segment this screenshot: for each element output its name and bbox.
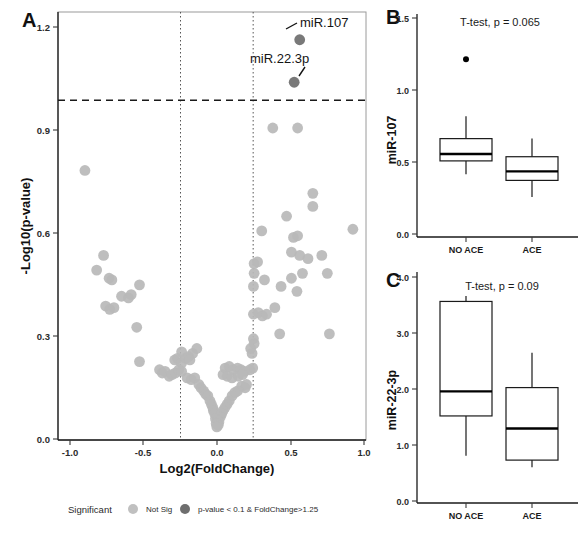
panel-a-xtick-3: 0.5 (284, 447, 298, 458)
volcano-point[interactable] (109, 302, 120, 313)
panel-c-boxes (440, 296, 558, 467)
panel-a-ytick-3: 0.9 (37, 125, 50, 136)
volcano-point[interactable] (322, 268, 333, 279)
panel-b: B T-test, p = 0.065 1.5 1.0 0.5 0.0 miR-… (385, 6, 578, 255)
volcano-point[interactable] (303, 253, 314, 264)
volcano-point[interactable] (185, 355, 196, 366)
volcano-point[interactable] (292, 230, 303, 241)
panel-a-ytick-0: 0.0 (37, 434, 50, 445)
volcano-point[interactable] (307, 201, 318, 212)
panel-b-ytick-2: 1.0 (396, 86, 409, 96)
panel-a-leader-mir107 (286, 23, 297, 29)
volcano-point[interactable] (131, 322, 142, 333)
volcano-point[interactable] (80, 165, 91, 176)
legend: Significant Not Sig p-value < 0.1 & Fold… (68, 504, 319, 515)
volcano-point[interactable] (126, 289, 137, 300)
panel-b-annotation: T-test, p = 0.065 (460, 16, 540, 28)
volcano-point[interactable] (247, 348, 258, 359)
volcano-point[interactable] (292, 286, 303, 297)
panel-a-plot-frame (58, 12, 366, 440)
boxplot-0[interactable] (440, 56, 492, 174)
volcano-point[interactable] (281, 211, 292, 222)
panel-b-boxes (440, 56, 558, 197)
panel-a-label-mir107: miR.107 (300, 15, 348, 30)
panel-a-xtick-1: -0.5 (135, 447, 152, 458)
volcano-point[interactable] (134, 279, 145, 290)
boxplot-outlier[interactable] (463, 56, 469, 62)
panel-a-xtick-0: -1.0 (62, 447, 78, 458)
panel-a-threshold-lines (58, 12, 366, 440)
legend-swatch-significant[interactable] (180, 504, 190, 514)
volcano-point[interactable] (134, 356, 145, 367)
panel-a-x-ticks: -1.0 -0.5 0.0 0.5 1.0 (62, 440, 371, 458)
volcano-point[interactable] (241, 379, 252, 390)
volcano-point[interactable] (292, 123, 303, 134)
volcano-point[interactable] (347, 224, 358, 235)
panel-a-leader-mir223p (299, 67, 305, 76)
figure-svg: A 1.2 0.9 0.6 0.3 0.0 (0, 0, 580, 538)
panel-c-y-ticks: 4.0 3.0 2.0 1.0 0.0 (396, 273, 417, 507)
panel-a-points (80, 34, 359, 432)
panel-b-x-ticks: NO ACE ACE (449, 237, 542, 255)
panel-a-x-axis-title: Log2(FoldChange) (160, 461, 275, 476)
volcano-point[interactable] (274, 328, 285, 339)
panel-c-ytick-0: 0.0 (396, 497, 409, 507)
panel-a-ytick-1: 0.3 (37, 331, 50, 342)
panel-c-category-0: NO ACE (449, 511, 484, 521)
boxplot-1[interactable] (506, 353, 558, 468)
volcano-point[interactable] (106, 275, 117, 286)
panel-a-y-axis-title: -Log10(p-value) (18, 178, 33, 275)
volcano-point[interactable] (324, 328, 335, 339)
volcano-point[interactable] (286, 273, 297, 284)
panel-c-ytick-3: 3.0 (396, 329, 409, 339)
volcano-point[interactable] (248, 309, 259, 320)
panel-b-ytick-0: 0.0 (396, 230, 409, 240)
figure-root: A 1.2 0.9 0.6 0.3 0.0 (0, 0, 580, 538)
panel-b-y-axis-title: miR-107 (385, 116, 399, 165)
panel-c-ytick-4: 4.0 (396, 273, 409, 283)
volcano-point[interactable] (267, 123, 278, 134)
panel-a-xtick-2: 0.0 (210, 447, 223, 458)
panel-a-ytick-4: 1.2 (37, 22, 50, 33)
volcano-point[interactable] (249, 268, 260, 279)
volcano-point[interactable] (191, 343, 202, 354)
volcano-point[interactable] (297, 268, 308, 279)
panel-c-category-1: ACE (522, 511, 541, 521)
legend-label-significant: p-value < 0.1 & FoldChange>1.25 (198, 505, 319, 514)
volcano-point[interactable] (248, 281, 259, 292)
panel-b-category-0: NO ACE (449, 245, 484, 255)
panel-a-ytick-2: 0.6 (37, 228, 50, 239)
volcano-point[interactable] (294, 34, 305, 45)
volcano-point[interactable] (237, 369, 248, 380)
volcano-point[interactable] (259, 275, 270, 286)
panel-b-y-ticks: 1.5 1.0 0.5 0.0 (396, 14, 417, 240)
volcano-point[interactable] (316, 250, 327, 261)
panel-a: A 1.2 0.9 0.6 0.3 0.0 (18, 9, 371, 476)
panel-a-letter: A (22, 9, 36, 31)
panel-c: C T-test, p = 0.09 4.0 3.0 2.0 1.0 0.0 m… (385, 269, 578, 521)
legend-title: Significant (68, 504, 112, 515)
legend-swatch-not-sig[interactable] (128, 504, 138, 514)
volcano-point[interactable] (252, 257, 263, 268)
legend-label-not-sig: Not Sig (146, 505, 172, 514)
panel-c-ytick-1: 1.0 (396, 441, 409, 451)
panel-b-category-1: ACE (522, 245, 541, 255)
volcano-point[interactable] (211, 422, 222, 433)
volcano-point[interactable] (91, 265, 102, 276)
boxplot-0[interactable] (440, 296, 492, 456)
panel-a-y-ticks: 1.2 0.9 0.6 0.3 0.0 (37, 22, 58, 445)
panel-c-annotation: T-test, p = 0.09 (465, 280, 539, 292)
volcano-point[interactable] (276, 281, 287, 292)
panel-b-ytick-3: 1.5 (396, 14, 409, 24)
panel-c-x-ticks: NO ACE ACE (449, 503, 542, 521)
panel-c-y-axis-title: miR-22-3p (385, 369, 399, 430)
volcano-point[interactable] (289, 77, 300, 88)
boxplot-1[interactable] (506, 139, 558, 197)
volcano-point[interactable] (261, 309, 272, 320)
volcano-point[interactable] (256, 226, 267, 237)
volcano-point[interactable] (98, 250, 109, 261)
panel-a-label-mir223p: miR.22.3p (250, 51, 309, 66)
volcano-point[interactable] (307, 188, 318, 199)
panel-a-xtick-4: 1.0 (357, 447, 370, 458)
